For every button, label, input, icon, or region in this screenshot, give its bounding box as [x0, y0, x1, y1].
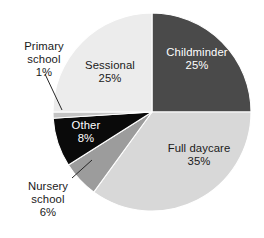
slice-label-primary-school: Primary school 1% [6, 40, 82, 80]
slice-label-full-daycare-name: Full daycare [153, 142, 245, 155]
slice-label-full-daycare: Full daycare 35% [153, 142, 245, 168]
slice-label-nursery-school-name-line2: school [10, 193, 86, 206]
slice-label-childminder: Childminder 25% [151, 46, 243, 72]
slice-label-sessional: Sessional 25% [72, 59, 148, 85]
slice-label-nursery-school: Nursery school 6% [10, 180, 86, 220]
slice-label-sessional-value: 25% [72, 72, 148, 85]
slice-label-childminder-value: 25% [151, 59, 243, 72]
slice-label-primary-school-value: 1% [6, 66, 82, 79]
slice-label-nursery-school-value: 6% [10, 206, 86, 219]
slice-label-other-value: 8% [58, 132, 114, 145]
slice-label-nursery-school-name-line1: Nursery [10, 180, 86, 193]
pie-chart: Childminder 25% Full daycare 35% Session… [0, 0, 264, 238]
slice-label-primary-school-name-line1: Primary [6, 40, 82, 53]
slice-label-primary-school-name-line2: school [6, 53, 82, 66]
slice-label-other-name: Other [58, 119, 114, 132]
slice-label-childminder-name: Childminder [151, 46, 243, 59]
slice-label-full-daycare-value: 35% [153, 155, 245, 168]
slice-label-other: Other 8% [58, 119, 114, 145]
slice-label-sessional-name: Sessional [72, 59, 148, 72]
